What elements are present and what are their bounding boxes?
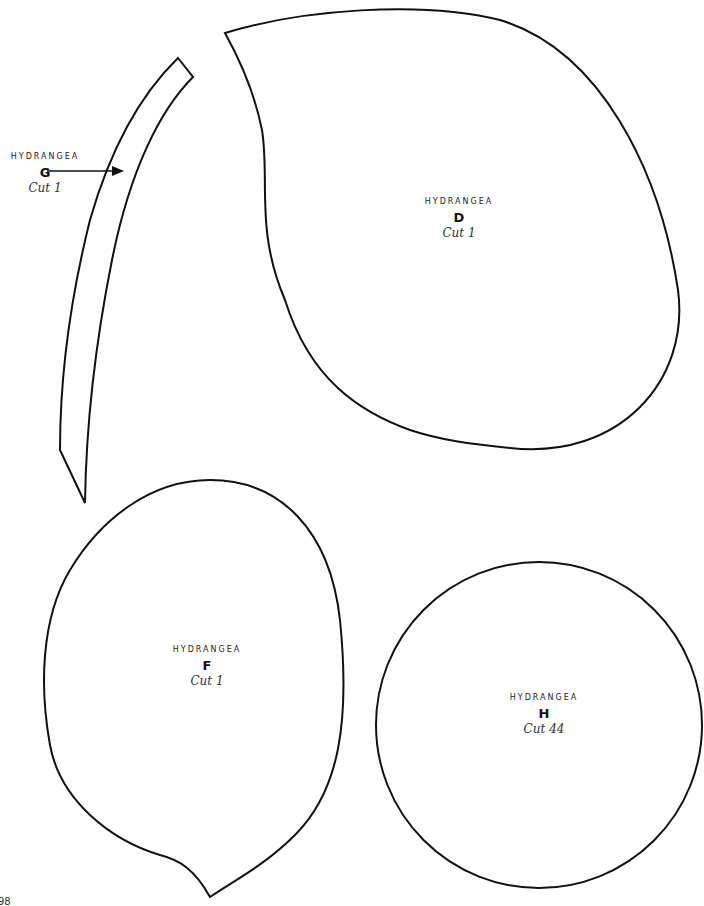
page-number: 98 (0, 896, 11, 906)
pattern-page: HYDRANGEA G Cut 1 HYDRANGEA D Cut 1 HYDR… (0, 0, 704, 906)
piece-d-name: HYDRANGEA (425, 198, 493, 206)
piece-h-label: HYDRANGEA H Cut 44 (510, 694, 578, 735)
pattern-shapes (0, 0, 704, 906)
piece-g-outline (60, 58, 193, 503)
piece-g-cut: Cut 1 (11, 182, 79, 194)
piece-f-label: HYDRANGEA F Cut 1 (173, 646, 241, 687)
piece-f-outline (44, 480, 344, 897)
piece-f-cut: Cut 1 (173, 675, 241, 687)
piece-h-name: HYDRANGEA (510, 694, 578, 702)
piece-f-name: HYDRANGEA (173, 646, 241, 654)
piece-f-letter: F (173, 659, 241, 672)
piece-g-arrow-head (112, 166, 124, 176)
piece-g-label: HYDRANGEA G Cut 1 (11, 153, 79, 194)
piece-d-letter: D (425, 211, 493, 224)
piece-d-label: HYDRANGEA D Cut 1 (425, 198, 493, 239)
piece-d-cut: Cut 1 (425, 227, 493, 239)
piece-h-letter: H (510, 707, 578, 720)
piece-g-name: HYDRANGEA (11, 153, 79, 161)
piece-h-cut: Cut 44 (510, 723, 578, 735)
piece-g-letter: G (11, 166, 79, 179)
